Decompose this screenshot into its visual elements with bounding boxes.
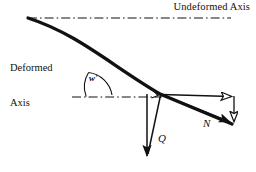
deformed-axis-label: Deformed Axis bbox=[10, 38, 53, 132]
normal-force-label: N bbox=[203, 117, 210, 129]
shear-force-leader bbox=[148, 93, 161, 154]
deformed-axis-curve bbox=[28, 18, 232, 124]
shear-force-label: Q bbox=[158, 132, 166, 144]
rotation-angle-label: w' bbox=[89, 73, 98, 83]
deformed-axis-label-line1: Deformed bbox=[10, 62, 53, 74]
horizontal-component-arrow bbox=[161, 95, 231, 97]
undeformed-axis-label: Undeformed Axis bbox=[174, 1, 250, 13]
normal-force-arrow bbox=[161, 94, 230, 122]
deformed-axis-label-line2: Axis bbox=[10, 97, 53, 109]
figure-canvas: Undeformed Axis Deformed Axis w' Q N bbox=[0, 0, 256, 172]
rotation-angle-arc-lower bbox=[84, 73, 88, 97]
